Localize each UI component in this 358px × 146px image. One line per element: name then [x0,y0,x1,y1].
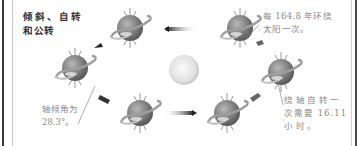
planet-icon [208,93,248,133]
orbit-arrow-icon [98,95,110,104]
note-line: 每 164.8 年环绕 [263,10,332,23]
note-line: 28.3°。 [42,116,78,129]
orbit-arrow-icon [164,26,198,32]
note-line: 轴倾角为 [42,103,78,116]
axial-tilt-note: 轴倾角为 28.3°。 [42,103,78,129]
planet-icon [56,48,96,88]
note-line: 小时。 [284,120,347,133]
orbit-arrow-icon [250,93,261,102]
page: 倾斜、自转 和公转 每 164.8 年环绕 太阳一次。 轴倾角为 28.3°。 … [0,0,358,146]
orbit-period-note: 每 164.8 年环绕 太阳一次。 [263,10,332,36]
planet-icon [221,8,261,48]
orbit-arrow-icon [163,110,197,116]
sun-icon [169,55,199,85]
diagram-title: 倾斜、自转 和公转 [23,10,83,38]
planet-icon [121,93,161,133]
title-line-1: 倾斜、自转 [23,10,83,24]
note-line: 次需要 16.11 [284,107,347,120]
planet-icon [262,52,302,92]
leader-line [78,86,95,124]
title-line-2: 和公转 [23,24,83,38]
planet-icon [111,8,151,48]
orbit-arrow-icon [94,43,103,48]
orbit-arrow-icon [256,40,264,46]
rotation-period-note: 绕轴自转一 次需要 16.11 小时。 [284,94,347,133]
note-line: 太阳一次。 [263,23,332,36]
note-line: 绕轴自转一 [284,94,347,107]
